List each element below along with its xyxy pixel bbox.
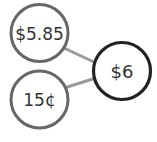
number-bond-diagram: $5.85 15¢ $6 — [0, 0, 157, 142]
connector-bottom — [64, 78, 96, 88]
part-bottom-label: 15¢ — [23, 90, 55, 110]
whole-label: $6 — [111, 61, 134, 82]
connector-top — [64, 48, 96, 63]
part-circle-top: $5.85 — [11, 5, 68, 62]
part-circle-bottom: 15¢ — [11, 71, 68, 128]
whole-circle: $6 — [94, 43, 151, 100]
part-top-label: $5.85 — [15, 24, 64, 44]
